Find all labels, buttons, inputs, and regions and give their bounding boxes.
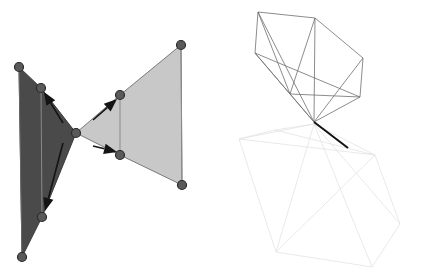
wireframe-edge xyxy=(255,12,258,53)
wireframe-edge xyxy=(314,58,363,122)
wireframe-lower-cone-faint xyxy=(239,124,400,267)
wireframe-edge xyxy=(258,12,315,18)
wireframe-edge xyxy=(255,53,360,97)
vertex-marker xyxy=(116,91,125,100)
vertex-marker xyxy=(15,63,24,72)
wireframe-edge xyxy=(275,124,314,130)
vertex-marker xyxy=(177,41,186,50)
wireframe-edge xyxy=(314,124,372,267)
wireframe-edge xyxy=(276,252,372,267)
left-panel-group xyxy=(15,41,187,262)
vertex-marker xyxy=(38,213,47,222)
wireframe-edge xyxy=(314,18,315,122)
vertex-marker xyxy=(18,253,27,262)
wireframe-edge xyxy=(314,124,400,224)
right-light-polygon xyxy=(76,45,182,185)
direction-arrowhead xyxy=(43,197,53,211)
wireframe-edge xyxy=(239,139,375,155)
vertex-marker xyxy=(37,84,46,93)
wireframe-upper-cone xyxy=(255,12,363,122)
wireframe-edge xyxy=(372,224,400,267)
wireframe-edge xyxy=(276,124,314,252)
wireframe-edge xyxy=(314,97,360,122)
wireframe-edge xyxy=(239,139,276,252)
wireframe-edge xyxy=(375,155,400,224)
wireframe-edge xyxy=(258,12,314,122)
diagram-canvas xyxy=(0,0,424,277)
vertex-marker xyxy=(72,129,81,138)
wireframe-edge xyxy=(258,12,290,94)
wireframe-edge xyxy=(315,18,363,58)
right-panel-group xyxy=(239,12,400,267)
vertex-marker xyxy=(116,151,125,160)
geometry-figure-svg xyxy=(0,0,424,277)
vertex-marker xyxy=(178,181,187,190)
wireframe-edge xyxy=(360,58,363,97)
